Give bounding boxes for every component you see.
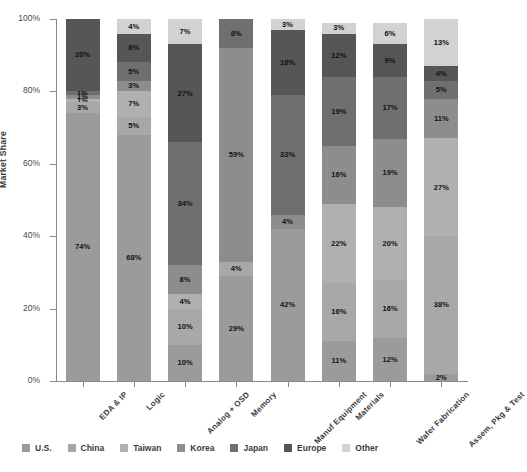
bar-segment-value: 16% xyxy=(382,305,397,313)
x-axis-tick xyxy=(236,382,237,387)
bar-stack[interactable]: 8%59%4%29% xyxy=(219,19,253,381)
x-axis-line xyxy=(56,381,468,382)
x-axis-tick xyxy=(134,382,135,387)
bar-segment[interactable]: 18% xyxy=(271,30,305,95)
legend-swatch-icon xyxy=(230,444,238,452)
legend-item[interactable]: Other xyxy=(342,443,378,453)
bar-segment[interactable]: 27% xyxy=(424,138,458,236)
x-axis-category-label: Analog + OSD xyxy=(206,390,252,436)
bar-segment[interactable]: 33% xyxy=(271,95,305,214)
bar-segment[interactable]: 16% xyxy=(322,283,356,341)
bar-segment-value: 5% xyxy=(128,68,139,76)
y-axis-tick-label-text: 20% xyxy=(23,303,40,313)
bar-stack[interactable]: 3%12%19%16%22%16%11% xyxy=(322,23,356,381)
legend-item[interactable]: China xyxy=(68,443,105,453)
bar-segment-value: 17% xyxy=(382,104,397,112)
x-axis-category-label: Assem, Pkg & Test xyxy=(467,390,526,449)
y-axis-tick xyxy=(50,236,56,237)
legend-item[interactable]: Japan xyxy=(230,443,268,453)
legend-item[interactable]: Europe xyxy=(284,443,326,453)
bar-segment[interactable]: 12% xyxy=(322,34,356,77)
y-axis-title-label: Market Share xyxy=(0,131,8,188)
bar-segment[interactable]: 11% xyxy=(424,99,458,139)
bar-segment-value: 74% xyxy=(75,243,90,251)
bar-segment[interactable]: 3% xyxy=(271,19,305,30)
bar-segment[interactable]: 10% xyxy=(168,309,202,345)
bar-segment-value: 3% xyxy=(77,104,88,112)
legend-swatch-icon xyxy=(120,444,128,452)
bar-segment[interactable]: 17% xyxy=(373,77,407,139)
bar-segment-value: 7% xyxy=(128,100,139,108)
y-axis-tick-label-text: 0% xyxy=(28,375,40,385)
bar-segment[interactable]: 8% xyxy=(168,265,202,294)
bar-segment[interactable]: 5% xyxy=(117,117,151,135)
bar-segment[interactable]: 4% xyxy=(424,66,458,80)
bar-segment-value: 4% xyxy=(282,218,293,226)
legend-swatch-icon xyxy=(22,444,30,452)
y-axis-tick xyxy=(50,164,56,165)
y-axis-title: Market Share xyxy=(0,85,8,142)
legend-item[interactable]: U.S. xyxy=(22,443,52,453)
bar-segment[interactable]: 38% xyxy=(424,236,458,374)
bar-segment[interactable]: 8% xyxy=(117,34,151,63)
bar-segment[interactable]: 4% xyxy=(219,262,253,276)
bar-segment[interactable]: 59% xyxy=(219,48,253,262)
bar-stack[interactable]: 6%9%17%19%20%16%12% xyxy=(373,23,407,381)
legend-item[interactable]: Taiwan xyxy=(120,443,161,453)
bar-segment[interactable]: 34% xyxy=(168,142,202,265)
bar-segment[interactable]: 3% xyxy=(66,102,100,113)
bar-segment[interactable]: 9% xyxy=(373,44,407,77)
bar-segment-value: 10% xyxy=(177,359,192,367)
bar-segment[interactable]: 68% xyxy=(117,135,151,381)
bar-segment[interactable]: 5% xyxy=(424,81,458,99)
bar-segment[interactable]: 74% xyxy=(66,113,100,381)
bar-segment[interactable]: 3% xyxy=(117,81,151,92)
bar-segment[interactable]: 12% xyxy=(373,338,407,381)
bar-segment[interactable]: 5% xyxy=(117,62,151,80)
bar-segment[interactable]: 29% xyxy=(219,276,253,381)
bar-segment[interactable]: 16% xyxy=(322,146,356,204)
bar-segment-value: 12% xyxy=(382,356,397,364)
bar-segment-value: 27% xyxy=(177,90,192,98)
bar-segment[interactable]: 13% xyxy=(424,19,458,66)
legend-swatch-icon xyxy=(68,444,76,452)
bar-segment-value: 38% xyxy=(434,301,449,309)
bar-segment-value: 42% xyxy=(280,301,295,309)
y-axis-tick xyxy=(50,91,56,92)
bar-segment[interactable]: 2% xyxy=(424,374,458,381)
bar-segment[interactable]: 27% xyxy=(168,44,202,142)
legend-item[interactable]: Korea xyxy=(177,443,214,453)
legend-label: Europe xyxy=(297,443,326,453)
bar-segment[interactable]: 4% xyxy=(271,215,305,229)
y-axis-tick-label-text: 100% xyxy=(18,13,40,23)
bar-segment[interactable]: 10% xyxy=(168,345,202,381)
bar-segment[interactable]: 4% xyxy=(117,19,151,33)
bar-segment[interactable]: 16% xyxy=(373,280,407,338)
bar-segment[interactable]: 19% xyxy=(322,77,356,146)
bar-segment-value: 4% xyxy=(180,298,191,306)
bar-segment[interactable]: 11% xyxy=(322,341,356,381)
bar-stack[interactable]: 3%18%33%4%42% xyxy=(271,19,305,381)
bar-segment-value: 22% xyxy=(331,240,346,248)
bar-segment-value: 16% xyxy=(331,171,346,179)
bar-stack[interactable]: 7%27%34%8%4%10%10% xyxy=(168,19,202,381)
bar-stack[interactable]: 4%8%5%3%7%5%68% xyxy=(117,19,151,381)
legend-label: U.S. xyxy=(35,443,52,453)
bar-segment[interactable]: 20% xyxy=(66,19,100,91)
bar-segment[interactable]: 19% xyxy=(373,139,407,208)
bar-segment[interactable]: 22% xyxy=(322,204,356,284)
bar-segment[interactable]: 20% xyxy=(373,207,407,279)
bar-segment[interactable]: 42% xyxy=(271,229,305,381)
bar-segment[interactable]: 7% xyxy=(168,19,202,44)
bar-stack[interactable]: 13%4%5%11%27%38%2% xyxy=(424,19,458,381)
bar-segment-value: 27% xyxy=(434,184,449,192)
bar-segment[interactable]: 6% xyxy=(373,23,407,45)
bar-segment[interactable]: 4% xyxy=(168,294,202,308)
bar-segment-value: 5% xyxy=(128,122,139,130)
bar-segment[interactable]: 7% xyxy=(117,91,151,116)
bar-stack[interactable]: 20%1%1%1%3%74% xyxy=(66,19,100,381)
bar-segment-value: 19% xyxy=(382,169,397,177)
bar-segment[interactable]: 8% xyxy=(219,19,253,48)
bar-segment[interactable]: 3% xyxy=(322,23,356,34)
